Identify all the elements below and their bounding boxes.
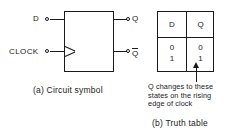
truth-table-cell-q-row1: 1 bbox=[187, 55, 214, 63]
d-input-label: D bbox=[33, 15, 39, 23]
truth-table-caption: (b) Truth table bbox=[152, 119, 208, 128]
q-output-label: Q bbox=[132, 15, 138, 23]
clock-edge-triangle-icon bbox=[65, 46, 74, 56]
flip-flop-body bbox=[64, 11, 114, 72]
circuit-symbol-caption: (a) Circuit symbol bbox=[33, 86, 103, 95]
truth-table-header-divider bbox=[158, 37, 213, 38]
d-flip-flop-figure: D CLOCK Q Q (a) Circuit symbol D Q 0 bbox=[0, 0, 245, 134]
qbar-output-label: Q bbox=[132, 48, 138, 58]
truth-table-cell-d-row1: 1 bbox=[158, 55, 186, 63]
annotation-line-3: edge of clock bbox=[148, 100, 240, 109]
d-input-wire bbox=[50, 19, 64, 20]
truth-table-column-q: 0 1 bbox=[187, 44, 214, 66]
truth-table-cell-q-row0: 0 bbox=[187, 44, 214, 52]
d-input-terminal bbox=[45, 17, 49, 21]
clock-input-wire bbox=[50, 51, 64, 52]
truth-table-cell-d-row0: 0 bbox=[158, 44, 186, 52]
qbar-output-terminal bbox=[126, 49, 130, 53]
truth-table-grid: D Q 0 1 0 1 bbox=[157, 11, 214, 72]
truth-table-header-q: Q bbox=[187, 21, 214, 29]
q-output-terminal bbox=[126, 17, 130, 21]
qbar-overline: Q bbox=[132, 48, 138, 58]
annotation-arrow-stem bbox=[196, 66, 197, 82]
clock-input-label: CLOCK bbox=[9, 48, 39, 56]
truth-table-header-d: D bbox=[158, 21, 186, 29]
truth-table-column-d: 0 1 bbox=[158, 44, 186, 66]
clock-input-terminal bbox=[45, 49, 49, 53]
truth-table-annotation: Q changes to these states on the rising … bbox=[148, 83, 240, 109]
